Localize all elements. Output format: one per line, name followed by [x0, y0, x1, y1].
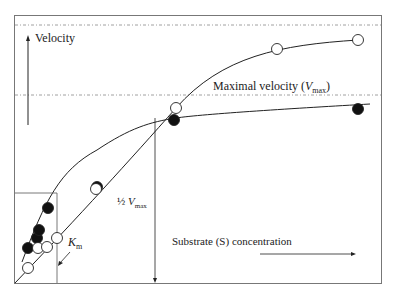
open-data-point: [272, 44, 283, 55]
open-data-point: [52, 233, 63, 244]
open-data-point: [42, 242, 53, 253]
filled-data-point: [169, 115, 180, 126]
filled-data-point: [43, 203, 54, 214]
michaelis-menten-diagram: Velocity Maximal velocity (Vmax) ½ Vmax …: [0, 0, 394, 296]
km-label: Km: [67, 235, 83, 251]
velocity-arrow-icon: [26, 35, 30, 41]
open-data-point: [91, 184, 102, 195]
velocity-label: Velocity: [35, 31, 75, 45]
km-arrow-icon: [58, 261, 63, 266]
km-arrow-line: [60, 252, 70, 263]
filled-data-point: [23, 243, 34, 254]
half-vmax-label: ½ Vmax: [117, 195, 147, 210]
open-data-point: [353, 35, 364, 46]
open-data-point: [171, 103, 182, 114]
open-data-point: [23, 263, 34, 274]
filled-data-point: [34, 225, 45, 236]
filled-data-point: [353, 104, 364, 115]
vmax-label: Maximal velocity (Vmax): [213, 79, 330, 95]
substrate-arrow-icon: [351, 252, 356, 256]
half-vmax-arrow-icon: [153, 278, 157, 283]
substrate-label: Substrate (S) concentration: [172, 235, 292, 248]
